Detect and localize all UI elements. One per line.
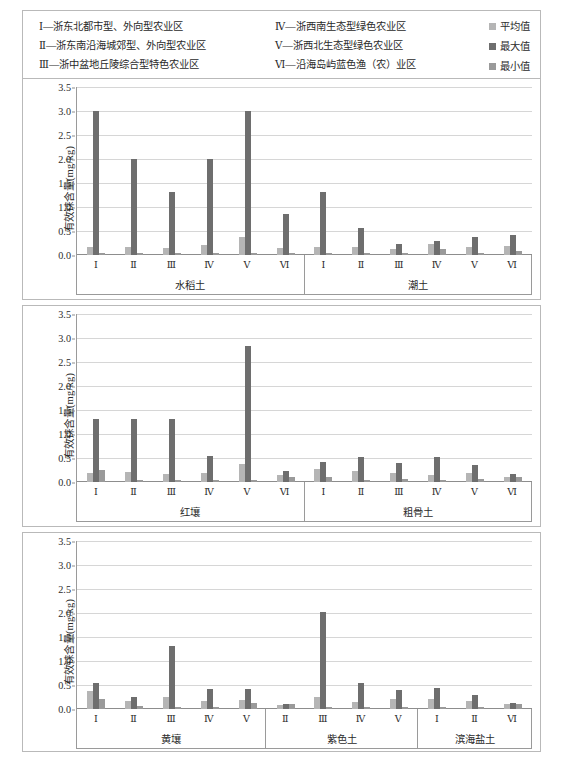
x-axis-category-label: Ⅲ bbox=[152, 709, 190, 728]
category-slot bbox=[77, 87, 115, 255]
x-axis-group: ⅠⅡⅢⅣⅤⅥ潮土 bbox=[305, 255, 532, 294]
bar-max bbox=[131, 419, 137, 482]
bar-max bbox=[358, 683, 364, 709]
bar-groups-1 bbox=[77, 314, 532, 482]
y-tick-label: 3.0 bbox=[58, 560, 71, 571]
category-slot bbox=[77, 541, 115, 709]
x-axis-category-label: Ⅰ bbox=[418, 709, 456, 728]
x-axis-category-label: Ⅳ bbox=[190, 255, 228, 274]
y-tick-label: 0.0 bbox=[58, 704, 71, 715]
x-axis-category-row: ⅠⅡⅢⅣⅤⅥ bbox=[305, 482, 532, 501]
soil-group bbox=[305, 87, 533, 255]
category-slot bbox=[418, 314, 456, 482]
category-slot bbox=[153, 314, 191, 482]
category-slot bbox=[456, 87, 494, 255]
soil-group bbox=[77, 314, 305, 482]
series-legend: 平均值 最大值 最小值 bbox=[489, 19, 530, 74]
y-tick-mark bbox=[72, 135, 75, 136]
y-tick-mark bbox=[72, 314, 75, 315]
category-slot bbox=[342, 314, 380, 482]
bar-max bbox=[320, 612, 326, 709]
category-slot bbox=[380, 541, 418, 709]
bar-max bbox=[245, 111, 251, 255]
y-tick-mark bbox=[72, 362, 75, 363]
x-axis-soil-label: 滨海盐土 bbox=[418, 728, 531, 748]
category-slot bbox=[494, 314, 532, 482]
category-slot bbox=[267, 87, 305, 255]
x-axis-table-1: ⅠⅡⅢⅣⅤⅥ红壤ⅠⅡⅢⅣⅤⅥ粗骨土 bbox=[76, 482, 532, 522]
axis-area-2: 0.00.51.01.52.02.53.03.5 bbox=[49, 541, 532, 709]
x-axis-category-row: ⅡⅢⅣⅤ bbox=[266, 709, 417, 728]
legend-zone-2: Ⅱ—浙东南沿海城郊型、外向型农业区 bbox=[39, 37, 271, 54]
y-tick-label: 0.5 bbox=[58, 680, 71, 691]
bar-max bbox=[283, 214, 289, 255]
y-tick-mark bbox=[72, 458, 75, 459]
category-slot bbox=[305, 87, 343, 255]
y-tick-label: 2.5 bbox=[58, 357, 71, 368]
x-axis-category-label: Ⅱ bbox=[266, 709, 304, 728]
legend-series-mean-label: 平均值 bbox=[500, 19, 530, 34]
chart-panel-2: 有效铼含量(mg/kg) 0.00.51.01.52.02.53.03.5 ⅠⅡ… bbox=[22, 532, 541, 752]
soil-group bbox=[77, 87, 305, 255]
bar-max bbox=[169, 646, 175, 709]
x-axis-category-label: Ⅱ bbox=[115, 482, 153, 501]
x-axis-table-0: ⅠⅡⅢⅣⅤⅥ水稻土ⅠⅡⅢⅣⅤⅥ潮土 bbox=[76, 255, 532, 295]
x-axis-table-2: ⅠⅡⅢⅣⅤ黄壤ⅡⅢⅣⅤ紫色土ⅠⅡⅥ滨海盐土 bbox=[76, 709, 532, 749]
x-axis-category-label: Ⅳ bbox=[418, 482, 456, 501]
chart-panel-1: 有效铼含量(mg/kg) 0.00.51.01.52.02.53.03.5 ⅠⅡ… bbox=[22, 305, 541, 527]
x-axis-category-label: Ⅱ bbox=[342, 255, 380, 274]
soil-group bbox=[418, 541, 532, 709]
category-slot bbox=[456, 541, 494, 709]
y-ticks-2: 0.00.51.01.52.02.53.03.5 bbox=[49, 541, 75, 709]
y-tick-label: 0.0 bbox=[58, 250, 71, 261]
y-tick-mark bbox=[72, 255, 75, 256]
x-axis-soil-label: 紫色土 bbox=[266, 728, 417, 748]
soil-group bbox=[305, 314, 533, 482]
y-tick-label: 3.0 bbox=[58, 106, 71, 117]
y-tick-label: 1.0 bbox=[58, 656, 71, 667]
y-tick-label: 1.0 bbox=[58, 429, 71, 440]
y-tick-label: 1.0 bbox=[58, 202, 71, 213]
bar-max bbox=[207, 456, 213, 482]
y-tick-mark bbox=[72, 231, 75, 232]
legend-series-max-label: 最大值 bbox=[500, 39, 530, 54]
legend-zone-3: Ⅲ—浙中盆地丘陵综合型特色农业区 bbox=[39, 56, 271, 73]
x-axis-category-row: ⅠⅡⅢⅣⅤⅥ bbox=[77, 482, 304, 501]
x-axis-category-label: Ⅵ bbox=[493, 255, 531, 274]
y-tick-mark bbox=[72, 207, 75, 208]
bar-max bbox=[245, 346, 251, 482]
x-axis-category-label: Ⅰ bbox=[77, 709, 115, 728]
y-tick-mark bbox=[72, 434, 75, 435]
x-axis-category-label: Ⅴ bbox=[228, 482, 266, 501]
category-slot bbox=[191, 87, 229, 255]
bar-max bbox=[358, 228, 364, 255]
category-slot bbox=[494, 541, 532, 709]
y-tick-label: 0.5 bbox=[58, 453, 71, 464]
y-tick-label: 2.0 bbox=[58, 154, 71, 165]
legend-zone-1: Ⅰ—浙东北都市型、外向型农业区 bbox=[39, 18, 271, 35]
legend-series-min: 最小值 bbox=[489, 59, 530, 74]
x-axis-category-label: Ⅴ bbox=[228, 255, 266, 274]
legend-block: Ⅰ—浙东北都市型、外向型农业区 Ⅳ—浙西南生态型绿色农业区 Ⅱ—浙东南沿海城郊型… bbox=[22, 10, 541, 78]
y-tick-label: 3.5 bbox=[58, 536, 71, 547]
y-tick-mark bbox=[72, 386, 75, 387]
agri-zone-legend: Ⅰ—浙东北都市型、外向型农业区 Ⅳ—浙西南生态型绿色农业区 Ⅱ—浙东南沿海城郊型… bbox=[39, 18, 532, 73]
y-tick-mark bbox=[72, 637, 75, 638]
bar-max bbox=[434, 457, 440, 482]
category-slot bbox=[191, 541, 229, 709]
y-tick-label: 1.5 bbox=[58, 405, 71, 416]
x-axis-category-label: Ⅲ bbox=[380, 482, 418, 501]
bar-max bbox=[396, 690, 402, 709]
x-axis-soil-label: 水稻土 bbox=[77, 274, 304, 294]
y-ticks-0: 0.00.51.01.52.02.53.03.5 bbox=[49, 87, 75, 255]
plot-area-1 bbox=[76, 314, 532, 482]
category-slot bbox=[229, 541, 267, 709]
x-axis-category-label: Ⅴ bbox=[228, 709, 266, 728]
x-axis-soil-label: 黄壤 bbox=[77, 728, 265, 748]
category-slot bbox=[267, 314, 305, 482]
x-axis-group: ⅠⅡⅥ滨海盐土 bbox=[418, 709, 531, 748]
y-tick-mark bbox=[72, 589, 75, 590]
x-axis-category-label: Ⅳ bbox=[342, 709, 380, 728]
y-tick-mark bbox=[72, 111, 75, 112]
legend-swatch-mean-icon bbox=[489, 23, 496, 30]
